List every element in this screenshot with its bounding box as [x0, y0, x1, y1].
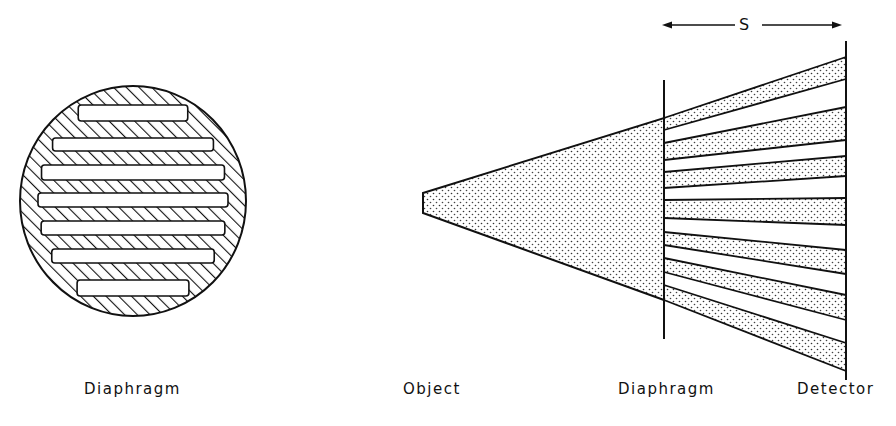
- optics-diagram: [0, 0, 896, 426]
- beamlets: [664, 57, 846, 371]
- right-diaphragm-label: Diaphragm: [618, 380, 715, 398]
- slot: [78, 105, 187, 121]
- slot: [52, 249, 214, 263]
- slot: [42, 165, 225, 180]
- beam-diagram: [423, 41, 846, 380]
- slot: [41, 221, 225, 235]
- detector-label: Detector: [797, 380, 874, 398]
- slotted-diaphragm-front-view: [20, 86, 246, 316]
- distance-label: S: [739, 15, 751, 34]
- slot: [53, 138, 214, 151]
- arrow-left-icon: [662, 22, 672, 29]
- distance-arrow: [662, 22, 842, 29]
- arrow-right-icon: [832, 22, 842, 29]
- slot: [38, 193, 228, 207]
- beamlet: [664, 156, 846, 188]
- object-label: Object: [403, 380, 461, 398]
- left-diaphragm-label: Diaphragm: [84, 380, 181, 398]
- object-cone: [423, 118, 664, 300]
- slot: [77, 280, 189, 296]
